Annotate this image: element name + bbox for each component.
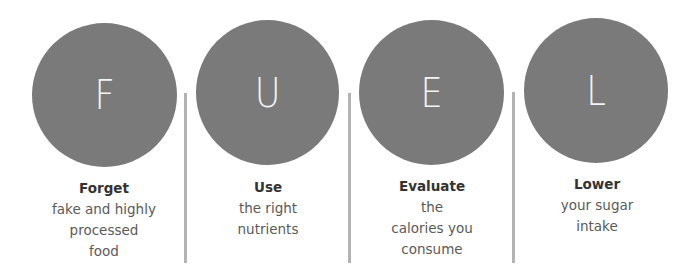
caption-title-forget: Forget (29, 178, 179, 199)
letter-l: L (586, 71, 606, 111)
letter-e: E (420, 73, 442, 113)
caption-evaluate: Evaluate the calories you consume (357, 176, 507, 260)
caption-line: nutrients (193, 219, 343, 240)
caption-forget: Forget fake and highly processed food (29, 178, 179, 262)
caption-line: the right (193, 198, 343, 219)
caption-use: Use the right nutrients (193, 177, 343, 240)
caption-line: calories you (357, 218, 507, 239)
caption-line: consume (357, 239, 507, 260)
caption-line: intake (522, 216, 672, 237)
divider-2 (348, 93, 351, 263)
letter-f: F (94, 75, 114, 115)
fuel-diagram: F Forget fake and highly processed food … (0, 0, 700, 279)
caption-title-evaluate: Evaluate (357, 176, 507, 197)
divider-3 (512, 92, 515, 263)
circle-u: U (196, 20, 339, 165)
caption-line: fake and highly (29, 199, 179, 220)
divider-1 (184, 93, 187, 263)
caption-line: processed (29, 220, 179, 241)
caption-title-use: Use (193, 177, 343, 198)
caption-title-lower: Lower (522, 174, 672, 195)
caption-line: the (357, 197, 507, 218)
circle-f: F (32, 23, 177, 167)
caption-line: your sugar (522, 195, 672, 216)
caption-line: food (29, 241, 179, 262)
circle-e: E (359, 20, 504, 165)
circle-l: L (524, 18, 668, 163)
caption-lower: Lower your sugar intake (522, 174, 672, 237)
letter-u: U (255, 73, 281, 113)
